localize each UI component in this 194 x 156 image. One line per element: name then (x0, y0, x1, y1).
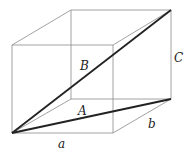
diagonal-B (12, 10, 171, 133)
box-diagram: B A C b a (0, 0, 194, 156)
label-A: A (77, 104, 87, 118)
edge-top-left-depth (12, 10, 71, 45)
edge-top-right-depth (113, 10, 171, 45)
label-a: a (58, 137, 65, 151)
label-b: b (148, 117, 156, 131)
edge-bottom-right-depth (113, 99, 171, 133)
edge-bottom-left-depth (12, 99, 71, 133)
label-C: C (174, 51, 183, 65)
label-B: B (79, 59, 89, 73)
